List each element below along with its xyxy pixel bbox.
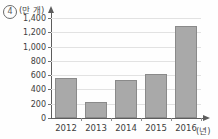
y-axis-tick	[48, 32, 51, 33]
y-axis-tick	[48, 47, 51, 48]
y-axis-tick-label: 1,000	[23, 42, 46, 51]
x-axis-tick	[141, 118, 142, 121]
y-axis-tick-label: 0	[41, 114, 46, 123]
y-axis-tick-label: 400	[31, 85, 46, 94]
x-axis-tick	[171, 118, 172, 121]
bar	[55, 78, 77, 118]
bar	[115, 80, 137, 118]
chart-figure: 4 (만 개) 02004006008001,0001,2001,400 201…	[0, 0, 218, 139]
y-axis-tick	[48, 104, 51, 105]
bar	[85, 102, 107, 118]
bar	[175, 26, 197, 118]
y-axis-tick-label: 1,200	[23, 28, 46, 37]
y-axis-tick	[48, 18, 51, 19]
x-axis-tick	[81, 118, 82, 121]
y-axis-tick-label: 200	[31, 99, 46, 108]
choice-number-marker: 4	[3, 5, 17, 19]
plot-area: 02004006008001,0001,2001,400	[51, 18, 201, 118]
x-axis-tick-label: 2012	[51, 123, 81, 133]
y-axis-tick	[48, 75, 51, 76]
x-axis-tick	[111, 118, 112, 121]
x-axis-tick	[201, 118, 202, 121]
x-axis-tick-label: 2015	[141, 123, 171, 133]
x-axis-arrow-icon	[203, 115, 210, 121]
bar	[145, 74, 167, 118]
y-axis-tick-label: 1,400	[23, 14, 46, 23]
x-axis-tick-label: 2013	[81, 123, 111, 133]
y-axis-tick	[48, 61, 51, 62]
y-axis-tick-label: 800	[31, 56, 46, 65]
y-axis-tick-label: 600	[31, 71, 46, 80]
x-axis-unit-label: (년)	[196, 124, 211, 136]
y-axis-tick	[48, 89, 51, 90]
y-axis-tick	[48, 118, 51, 119]
x-axis-line	[51, 118, 204, 119]
x-axis-tick-label: 2014	[111, 123, 141, 133]
gridline	[51, 18, 201, 19]
